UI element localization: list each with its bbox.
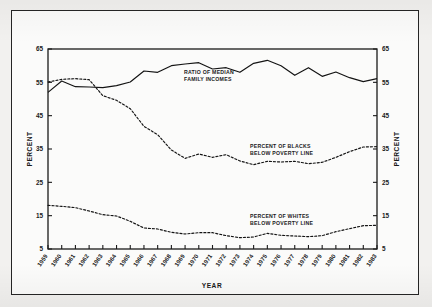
x-tick-label: 1979 xyxy=(310,253,323,268)
y-tick-label-right: 35 xyxy=(382,145,390,152)
y-axis-tick-labels-left: 5152535455565 xyxy=(36,45,44,252)
x-tick-label: 1973 xyxy=(228,253,241,268)
y-axis-title-right: PERCENT xyxy=(393,131,400,166)
x-tick-label: 1959 xyxy=(36,253,49,268)
x-tick-label: 1982 xyxy=(352,253,365,268)
x-tick-label: 1969 xyxy=(173,253,186,268)
chart-plot-area: 5152535455565 5152535455565 195919601961… xyxy=(0,0,432,307)
annotation-whites-line-2: BELOW POVERTY LINE xyxy=(250,220,313,226)
x-tick-label: 1983 xyxy=(365,253,378,268)
y-tick-label-right: 45 xyxy=(382,112,390,119)
x-tick-label: 1963 xyxy=(91,253,104,268)
figure-root: 5152535455565 5152535455565 195919601961… xyxy=(0,0,432,307)
y-tick-label-right: 65 xyxy=(382,45,390,52)
x-tick-label: 1960 xyxy=(50,253,63,268)
y-tick-label-right: 25 xyxy=(382,179,390,186)
y-tick-label-left: 25 xyxy=(36,179,44,186)
x-tick-label: 1968 xyxy=(160,253,173,268)
y-tick-label-left: 35 xyxy=(36,145,44,152)
x-tick-label: 1980 xyxy=(324,253,337,268)
y-axis-title-left: PERCENT xyxy=(26,131,33,166)
x-tick-label: 1974 xyxy=(242,253,255,268)
y-tick-label-right: 55 xyxy=(382,79,390,86)
y-tick-label-right: 5 xyxy=(382,245,386,252)
x-tick-label: 1961 xyxy=(64,253,77,268)
x-tick-label: 1967 xyxy=(146,253,159,268)
x-tick-label: 1966 xyxy=(132,253,145,268)
y-tick-label-left: 45 xyxy=(36,112,44,119)
series-percent-of-blacks-below-poverty-line xyxy=(48,79,377,165)
annotation-ratio-line-2: FAMILY INCOMES xyxy=(184,76,232,82)
x-axis-title: YEAR xyxy=(202,282,222,289)
y-tick-label-left: 65 xyxy=(36,45,44,52)
x-tick-label: 1975 xyxy=(256,253,269,268)
y-tick-label-left: 55 xyxy=(36,79,44,86)
y-axis-tick-labels-right: 5152535455565 xyxy=(382,45,390,252)
x-tick-label: 1965 xyxy=(118,253,131,268)
x-tick-label: 1978 xyxy=(297,253,310,268)
y-tick-label-left: 15 xyxy=(36,212,44,219)
x-tick-label: 1981 xyxy=(338,253,351,268)
y-tick-label-right: 15 xyxy=(382,212,390,219)
annotation-blacks-line-1: PERCENT OF BLACKS xyxy=(250,143,311,149)
x-tick-label: 1970 xyxy=(187,253,200,268)
x-tick-label: 1962 xyxy=(77,253,90,268)
y-tick-label-left: 5 xyxy=(39,245,43,252)
x-tick-label: 1976 xyxy=(269,253,282,268)
x-tick-label: 1972 xyxy=(214,253,227,268)
series-percent-of-whites-below-poverty-line xyxy=(48,205,377,237)
annotation-ratio-line-1: RATIO OF MEDIAN xyxy=(184,69,234,75)
x-tick-label: 1964 xyxy=(105,253,118,268)
annotation-blacks-line-2: BELOW POVERTY LINE xyxy=(250,150,313,156)
x-tick-label: 1977 xyxy=(283,253,296,268)
x-tick-label: 1971 xyxy=(201,253,214,268)
annotation-whites-line-1: PERCENT OF WHITES xyxy=(250,213,310,219)
x-axis-tick-labels: 1959196019611962196319641965196619671968… xyxy=(36,253,378,268)
